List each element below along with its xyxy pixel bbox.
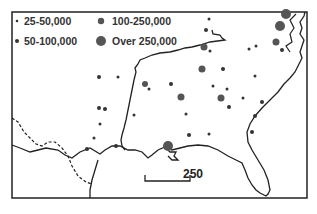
dashed-border (12, 118, 92, 184)
legend-label-50-100k: 50-100,000 (24, 35, 77, 47)
scale-label: 250 (183, 167, 203, 181)
legend-label-100-250k: 100-250,000 (112, 15, 171, 27)
map: 25-50,000 100-250,000 50-100,000 Over 25… (0, 0, 317, 214)
city-dots (85, 9, 291, 151)
legend-dot-25-50k (16, 20, 19, 23)
texas-coast (90, 160, 98, 198)
legend-label-25-50k: 25-50,000 (24, 15, 71, 27)
scale-bar: 250 (145, 167, 203, 181)
bay-line (286, 14, 296, 52)
legend-label-over-250k: Over 250,000 (112, 35, 177, 47)
legend-dot-100-250k (98, 18, 104, 24)
legend-dot-50-100k (15, 39, 19, 43)
legend: 25-50,000 100-250,000 50-100,000 Over 25… (15, 15, 177, 47)
legend-dot-over-250k (96, 36, 106, 46)
river-line (121, 30, 225, 150)
